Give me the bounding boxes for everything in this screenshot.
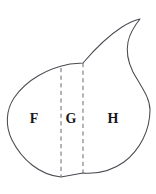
region-label-g: G	[66, 111, 77, 126]
region-label-f: F	[30, 111, 39, 126]
figure-container: F G H	[0, 0, 156, 194]
region-label-h: H	[108, 111, 119, 126]
region-diagram: F G H	[0, 0, 156, 194]
shape-outline-path	[7, 19, 150, 177]
